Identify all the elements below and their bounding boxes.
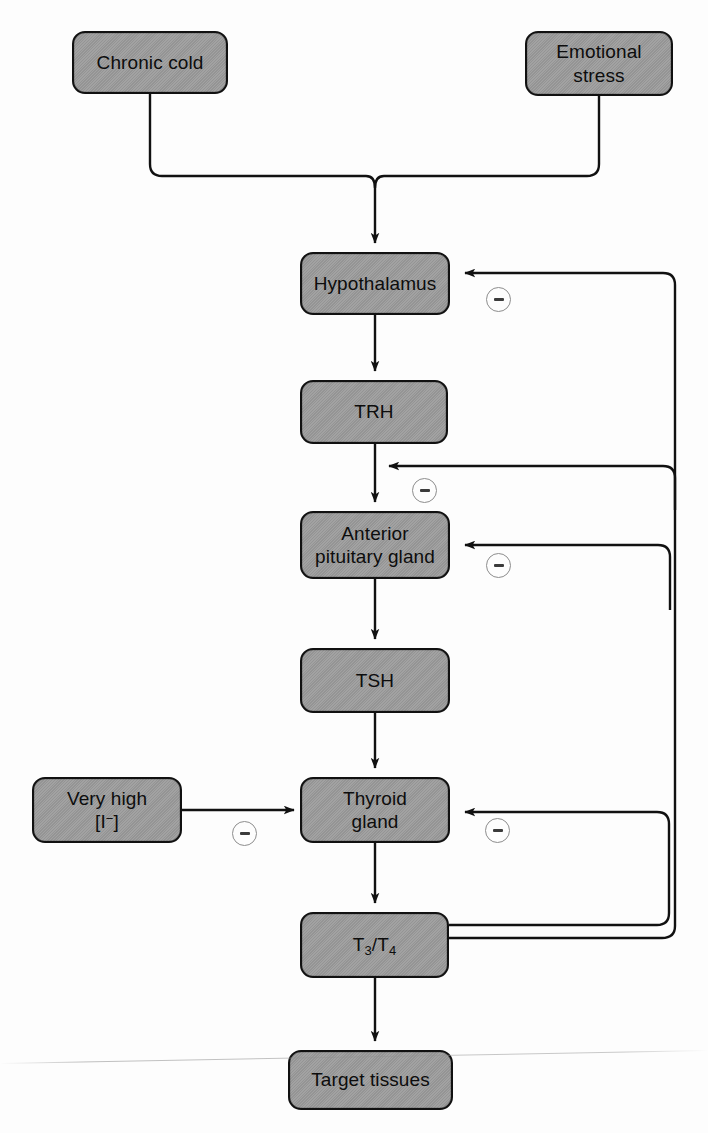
node-chronic-cold[interactable]: Chronic cold bbox=[72, 31, 228, 94]
t3-t4-pre: T bbox=[353, 934, 365, 955]
edge-chronic-cold-to-junction bbox=[150, 94, 366, 176]
node-anterior-pituitary-label-line2: pituitary gland bbox=[309, 545, 441, 568]
node-thyroid-gland-label-line1: Thyroid bbox=[337, 787, 413, 810]
t3-subscript: 3 bbox=[364, 943, 371, 958]
node-thyroid-gland[interactable]: Thyroid gland bbox=[300, 777, 450, 843]
node-very-high-iodide-label-line2: [I−] bbox=[89, 810, 125, 833]
t3-t4-mid: /T bbox=[372, 934, 389, 955]
node-target-tissues-label: Target tissues bbox=[305, 1068, 436, 1091]
feedback-branch-trh-pathway bbox=[389, 466, 675, 478]
t4-subscript: 4 bbox=[389, 943, 396, 958]
node-emotional-stress-label-line2: stress bbox=[567, 64, 630, 87]
minus-thyroid-gland-icon bbox=[485, 818, 510, 843]
node-emotional-stress-label-line1: Emotional bbox=[550, 40, 647, 63]
node-very-high-iodide-label-line1: Very high bbox=[61, 787, 153, 810]
feedback-trunk-inner bbox=[449, 812, 669, 925]
minus-hypothalamus-icon bbox=[486, 287, 511, 312]
flowchart-canvas: Chronic cold Emotional stress Hypothalam… bbox=[0, 0, 708, 1133]
node-thyroid-gland-label-line2: gland bbox=[346, 810, 405, 833]
minus-iodide-icon bbox=[232, 821, 257, 846]
node-trh-label: TRH bbox=[348, 400, 399, 423]
node-emotional-stress[interactable]: Emotional stress bbox=[525, 31, 673, 96]
node-anterior-pituitary-gland[interactable]: Anterior pituitary gland bbox=[300, 511, 450, 579]
node-tsh[interactable]: TSH bbox=[300, 648, 450, 713]
node-anterior-pituitary-label-line1: Anterior bbox=[335, 522, 414, 545]
node-chronic-cold-label: Chronic cold bbox=[91, 51, 210, 74]
iodide-bracket-open: [I bbox=[95, 811, 106, 832]
node-tsh-label: TSH bbox=[350, 669, 400, 692]
node-t3-t4[interactable]: T3/T4 bbox=[300, 912, 449, 978]
node-t3-t4-label: T3/T4 bbox=[347, 933, 403, 956]
node-hypothalamus-label: Hypothalamus bbox=[308, 272, 443, 295]
node-trh[interactable]: TRH bbox=[300, 380, 448, 444]
edge-junction-to-hypothalamus bbox=[366, 176, 375, 243]
edge-junction-right-curve bbox=[375, 176, 384, 188]
minus-anterior-pituitary-icon bbox=[486, 553, 511, 578]
edge-emotional-stress-to-junction bbox=[384, 96, 599, 176]
iodide-charge: − bbox=[106, 811, 114, 826]
node-target-tissues[interactable]: Target tissues bbox=[288, 1050, 453, 1110]
node-hypothalamus[interactable]: Hypothalamus bbox=[300, 252, 450, 315]
feedback-trunk-outer bbox=[449, 273, 675, 938]
node-very-high-iodide[interactable]: Very high [I−] bbox=[32, 777, 182, 843]
iodide-bracket-close: ] bbox=[114, 811, 119, 832]
minus-trh-pathway-icon bbox=[412, 478, 437, 503]
